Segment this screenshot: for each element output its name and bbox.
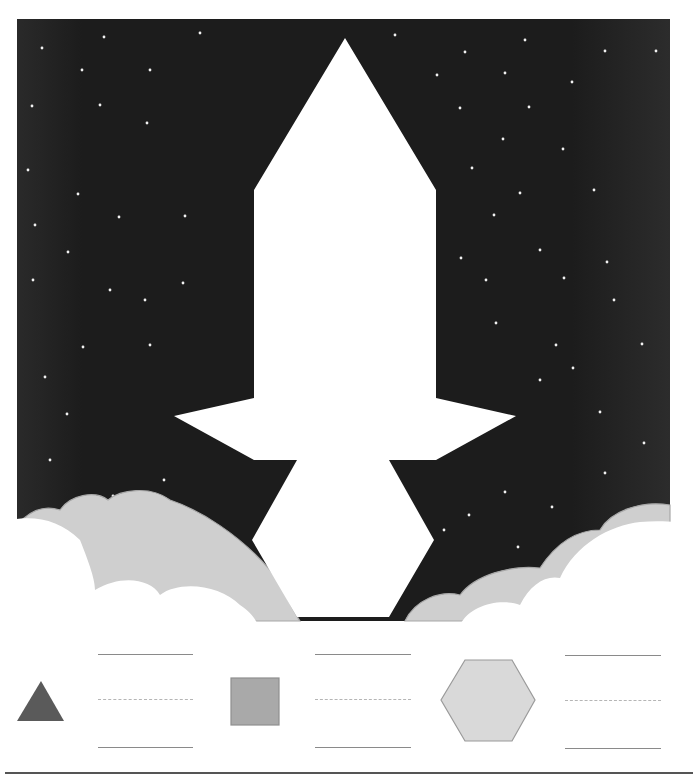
writing-line-bottom bbox=[98, 747, 193, 748]
star bbox=[562, 148, 565, 151]
star bbox=[539, 249, 542, 252]
star bbox=[27, 169, 30, 172]
star bbox=[528, 106, 531, 109]
star bbox=[641, 343, 644, 346]
writing-line-bottom bbox=[315, 747, 411, 748]
bottom-divider bbox=[5, 772, 693, 774]
puzzle-scene bbox=[0, 0, 693, 777]
star bbox=[655, 50, 658, 53]
star bbox=[77, 193, 80, 196]
writing-line-middle bbox=[315, 699, 411, 700]
star bbox=[118, 216, 121, 219]
star bbox=[539, 379, 542, 382]
star bbox=[146, 122, 149, 125]
star bbox=[163, 479, 166, 482]
star bbox=[149, 69, 152, 72]
star bbox=[471, 167, 474, 170]
star bbox=[31, 105, 34, 108]
writing-line-middle bbox=[565, 700, 661, 701]
star bbox=[572, 367, 575, 370]
star bbox=[109, 289, 112, 292]
star bbox=[485, 279, 488, 282]
star bbox=[604, 472, 607, 475]
star bbox=[149, 344, 152, 347]
star bbox=[443, 529, 446, 532]
star bbox=[493, 214, 496, 217]
star bbox=[66, 413, 69, 416]
star bbox=[555, 344, 558, 347]
star bbox=[44, 376, 47, 379]
star bbox=[604, 50, 607, 53]
writing-line-bottom bbox=[565, 748, 661, 749]
star bbox=[563, 277, 566, 280]
star bbox=[182, 282, 185, 285]
star bbox=[81, 69, 84, 72]
star bbox=[613, 299, 616, 302]
star bbox=[571, 81, 574, 84]
star bbox=[519, 192, 522, 195]
star bbox=[41, 47, 44, 50]
star bbox=[643, 442, 646, 445]
star bbox=[82, 346, 85, 349]
star bbox=[34, 224, 37, 227]
star bbox=[606, 261, 609, 264]
star bbox=[32, 279, 35, 282]
star bbox=[436, 74, 439, 77]
square-shape-icon bbox=[231, 678, 279, 725]
star bbox=[103, 36, 106, 39]
writing-line-top bbox=[98, 654, 193, 655]
star bbox=[394, 34, 397, 37]
star bbox=[502, 138, 505, 141]
star bbox=[551, 506, 554, 509]
star bbox=[99, 104, 102, 107]
hexagon-shape-icon bbox=[441, 660, 535, 741]
star bbox=[517, 546, 520, 549]
writing-line-top bbox=[565, 655, 661, 656]
star bbox=[495, 322, 498, 325]
triangle-shape-icon bbox=[17, 681, 64, 721]
star bbox=[593, 189, 596, 192]
star bbox=[504, 72, 507, 75]
star bbox=[144, 299, 147, 302]
star bbox=[524, 39, 527, 42]
writing-line-top bbox=[315, 654, 411, 655]
star bbox=[464, 51, 467, 54]
writing-line-middle bbox=[98, 699, 193, 700]
star bbox=[184, 215, 187, 218]
star bbox=[199, 32, 202, 35]
star bbox=[468, 514, 471, 517]
star bbox=[504, 491, 507, 494]
star bbox=[67, 251, 70, 254]
star bbox=[599, 411, 602, 414]
star bbox=[460, 257, 463, 260]
star bbox=[49, 459, 52, 462]
star bbox=[459, 107, 462, 110]
